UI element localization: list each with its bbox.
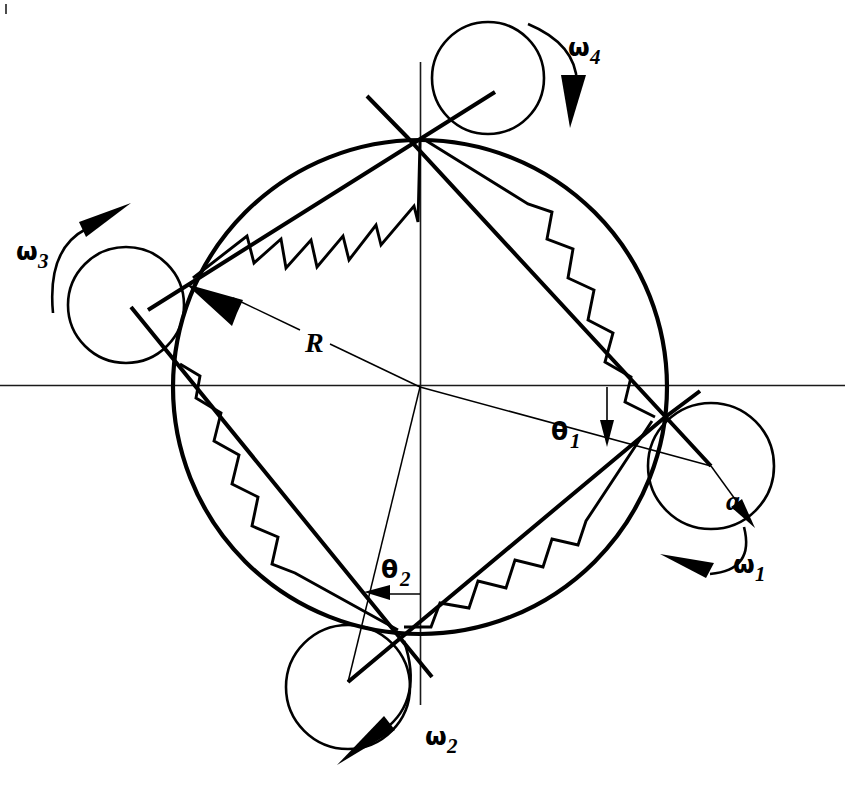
coordinate-axes xyxy=(0,62,845,705)
omega1-arrow-head xyxy=(660,554,714,578)
svg-text:1: 1 xyxy=(570,429,581,453)
spoke-radius-outer xyxy=(330,344,420,387)
omega3-arrow-head xyxy=(79,203,131,237)
teeth-lower-left xyxy=(180,364,398,630)
link-bar-4 xyxy=(348,391,700,682)
link-bar-2 xyxy=(148,92,495,310)
svg-text:ω: ω xyxy=(568,33,590,62)
theta1-label: θ 1 xyxy=(551,417,581,453)
roller-radius-label: a xyxy=(726,485,740,516)
omega2-arrow-head xyxy=(337,716,395,765)
omega1-label: ω 1 xyxy=(733,550,766,586)
svg-text:ω: ω xyxy=(733,550,755,579)
teeth-lower-right xyxy=(404,421,652,627)
omega3-label: ω 3 xyxy=(16,237,49,273)
svg-text:ω: ω xyxy=(425,722,447,751)
link-bar-1 xyxy=(367,96,711,466)
figure-container: R a θ 1 θ 2 ω 1 ω 2 ω 3 ω 4 xyxy=(0,0,845,790)
mechanism-diagram: R a θ 1 θ 2 ω 1 ω 2 ω 3 ω 4 xyxy=(0,0,845,790)
omega2-arc xyxy=(384,641,411,730)
radius-label: R xyxy=(304,327,324,358)
roller-circle-left xyxy=(68,247,184,363)
roller-circle-top xyxy=(432,22,544,134)
svg-text:θ: θ xyxy=(551,417,568,446)
theta2-dimension xyxy=(364,585,420,600)
theta1-dimension xyxy=(600,387,614,447)
theta2-label: θ 2 xyxy=(381,555,411,591)
omega4-arrow-head xyxy=(561,75,586,128)
svg-text:θ: θ xyxy=(381,555,398,584)
omega2-label: ω 2 xyxy=(425,722,458,758)
svg-text:3: 3 xyxy=(37,249,49,273)
svg-text:1: 1 xyxy=(755,562,766,586)
svg-text:4: 4 xyxy=(589,45,601,69)
theta1-arrow-head xyxy=(600,420,614,447)
spoke-radius-inner xyxy=(233,298,300,330)
svg-text:ω: ω xyxy=(16,237,38,266)
svg-text:2: 2 xyxy=(446,734,458,758)
svg-text:2: 2 xyxy=(399,567,411,591)
radius-arrow xyxy=(186,284,243,326)
link-bar-3 xyxy=(131,307,432,677)
